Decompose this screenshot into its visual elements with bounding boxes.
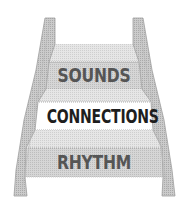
- tread-middle: [38, 89, 150, 102]
- tread-top: [49, 44, 139, 62]
- step-label-rhythm: RHYTHM: [53, 151, 135, 173]
- tread-bottom: [26, 130, 162, 148]
- step-label-connections: CONNECTIONS: [47, 104, 142, 128]
- step-label-sounds: SOUNDS: [53, 64, 135, 86]
